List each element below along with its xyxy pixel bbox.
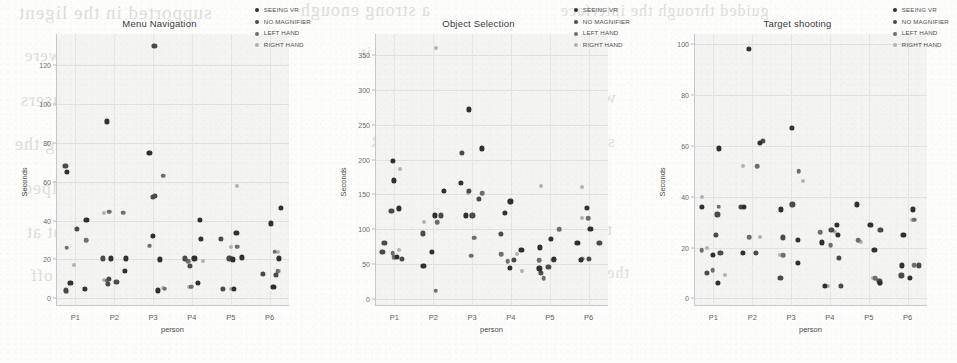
- legend-marker-icon: [893, 32, 897, 36]
- y-tick-label: 40: [681, 193, 689, 200]
- gridline-horizontal: [375, 125, 608, 126]
- x-axis-label: person: [375, 325, 608, 334]
- gridline-vertical: [589, 34, 590, 306]
- data-point: [705, 246, 709, 250]
- legend-label: RIGHT HAND: [902, 42, 942, 48]
- x-tick-label: P5: [864, 313, 873, 322]
- x-tick-label: P2: [110, 313, 119, 322]
- data-point: [422, 220, 426, 224]
- gridline-horizontal: [375, 264, 608, 265]
- y-tick-label: 20: [43, 256, 51, 263]
- legend-label: SEEING VR: [583, 7, 618, 13]
- y-tick-label: 100: [677, 41, 689, 48]
- data-point: [102, 211, 106, 215]
- gridline-horizontal: [375, 55, 608, 56]
- panel-object-selection: Object Selection Seconds 050100150200250…: [319, 0, 638, 363]
- x-tick-label: P5: [226, 313, 235, 322]
- data-point: [472, 235, 477, 240]
- y-tick-label: 300: [358, 86, 370, 93]
- x-tick-label: P2: [429, 313, 438, 322]
- data-point: [755, 164, 760, 169]
- data-point: [580, 216, 584, 220]
- data-point: [469, 253, 474, 258]
- x-axis-line: [694, 305, 927, 306]
- y-tick-label: 0: [47, 295, 51, 302]
- legend-marker-icon: [255, 43, 259, 47]
- gridline-vertical: [433, 34, 434, 306]
- legend-label: LEFT HAND: [583, 30, 619, 36]
- x-axis-label: person: [694, 325, 927, 334]
- gridline-vertical: [472, 34, 473, 306]
- data-point: [781, 253, 786, 258]
- x-tick-label: P5: [545, 313, 554, 322]
- legend-item: RIGHT HAND: [893, 42, 949, 48]
- data-point: [435, 220, 440, 225]
- data-point: [398, 167, 402, 171]
- legend-marker-icon: [574, 32, 578, 36]
- x-axis-line: [56, 305, 289, 306]
- y-tick-label: 60: [681, 142, 689, 149]
- gridline-horizontal: [56, 104, 289, 105]
- y-tick-label: 0: [366, 296, 370, 303]
- y-axis-line: [56, 34, 57, 306]
- x-tick-label: P3: [786, 313, 795, 322]
- data-point: [818, 230, 823, 235]
- gridline-horizontal: [694, 298, 927, 299]
- gridline-horizontal: [375, 299, 608, 300]
- data-point: [801, 179, 805, 183]
- legend-label: RIGHT HAND: [264, 42, 304, 48]
- gridline-horizontal: [375, 194, 608, 195]
- legend-marker-icon: [574, 43, 578, 47]
- data-point: [557, 227, 562, 232]
- y-tick-label: 20: [681, 244, 689, 251]
- legend-item: RIGHT HAND: [574, 42, 630, 48]
- panel-menu-navigation: Menu Navigation Seconds 020406080100120P…: [0, 0, 319, 363]
- legend-item: SEEING VR: [574, 7, 630, 13]
- data-point: [537, 258, 542, 263]
- x-tick-label: P1: [390, 313, 399, 322]
- data-point: [162, 286, 167, 291]
- gridline-vertical: [153, 34, 154, 306]
- data-point: [828, 243, 833, 248]
- y-axis-label: Seconds: [658, 167, 667, 196]
- x-tick-label: P4: [506, 313, 515, 322]
- y-axis-line: [375, 34, 376, 306]
- gridline-vertical: [394, 34, 395, 306]
- x-tick-label: P1: [709, 313, 718, 322]
- gridline-horizontal: [375, 90, 608, 91]
- data-point: [235, 184, 239, 188]
- data-point: [201, 259, 205, 263]
- data-point: [797, 169, 802, 174]
- data-point: [541, 276, 546, 281]
- x-tick-label: P1: [71, 313, 80, 322]
- legend-marker-icon: [574, 8, 578, 12]
- data-point: [72, 263, 76, 267]
- legend-item: LEFT HAND: [255, 30, 311, 36]
- gridline-vertical: [830, 34, 831, 306]
- legend-label: NO MAGNIFIER: [583, 19, 630, 25]
- x-tick-label: P6: [584, 313, 593, 322]
- y-tick-label: 150: [358, 191, 370, 198]
- scatter-figure: Menu Navigation Seconds 020406080100120P…: [0, 0, 957, 363]
- y-tick-label: 100: [358, 226, 370, 233]
- x-tick-label: P4: [187, 313, 196, 322]
- data-point: [520, 269, 524, 273]
- panel-target-shooting: Target shooting Seconds 020406080100P1P2…: [638, 0, 957, 363]
- legend-label: RIGHT HAND: [583, 42, 623, 48]
- y-tick-label: 250: [358, 121, 370, 128]
- gridline-vertical: [270, 34, 271, 306]
- x-tick-label: P3: [467, 313, 476, 322]
- data-point: [505, 259, 510, 264]
- x-tick-label: P3: [148, 313, 157, 322]
- data-point: [758, 235, 762, 239]
- data-point: [433, 288, 438, 293]
- data-point: [272, 249, 277, 254]
- gridline-horizontal: [56, 65, 289, 66]
- y-tick-label: 120: [39, 62, 51, 69]
- plot-background: [694, 34, 927, 306]
- legend-marker-icon: [893, 20, 897, 24]
- legend-item: NO MAGNIFIER: [255, 19, 311, 25]
- data-point: [189, 284, 194, 289]
- data-point: [235, 244, 240, 249]
- gridline-horizontal: [375, 229, 608, 230]
